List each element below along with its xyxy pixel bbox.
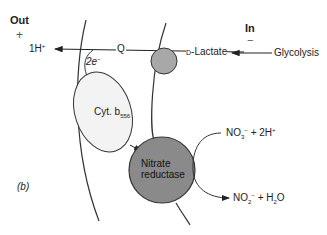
cytochrome-text: Cyt. b [94,106,120,117]
nitrate-label: NO3− + 2H+ [226,127,276,140]
nitrite-formula: NO [233,192,248,203]
out-charge: + [16,28,23,42]
nitrite-label: NO2− + H2O [233,192,285,205]
nitrate-charge: − [244,127,248,133]
quinone-label: Q [116,43,126,54]
nitrate-protons: + 2H [251,127,272,138]
nitrite-subscript: 2 [248,199,251,205]
in-charge: − [247,34,253,46]
lactate-dehydrogenase-circle [151,48,177,74]
electron-label: 2e− [86,56,101,67]
nitrate-reductase-label: Nitrate reductase [141,158,185,180]
nitrate-reduction-curve [193,133,229,198]
nitrate-protons-charge: + [272,127,276,133]
nitrate-formula: NO [226,127,241,138]
nitrate-reductase-line1: Nitrate [141,158,185,169]
cytochrome-label: Cyt. b556 [94,106,130,119]
electron-charge: − [97,56,101,62]
proton-charge: + [42,43,46,49]
inner-membrane-line [152,23,166,140]
in-label: In [245,22,255,34]
water-tail: O [277,192,285,203]
glycolysis-label: Glycolysis [274,47,319,58]
water-formula: + H [258,192,274,203]
d-lactate-name: -Lactate [191,46,227,57]
nitrate-subscript: 3 [241,134,244,140]
electron-text: 2e [86,56,97,67]
nitrate-reductase-line2: reductase [141,169,185,180]
panel-label: (b) [17,181,29,192]
proton-text: 1H [29,43,42,54]
inner-membrane-line-lower [176,203,190,225]
out-label: Out [10,14,29,26]
proton-label: 1H+ [29,43,45,54]
nitrite-charge: − [251,192,255,198]
cytochrome-subscript: 556 [120,113,130,119]
d-lactate-label: D-Lactate [186,46,227,57]
